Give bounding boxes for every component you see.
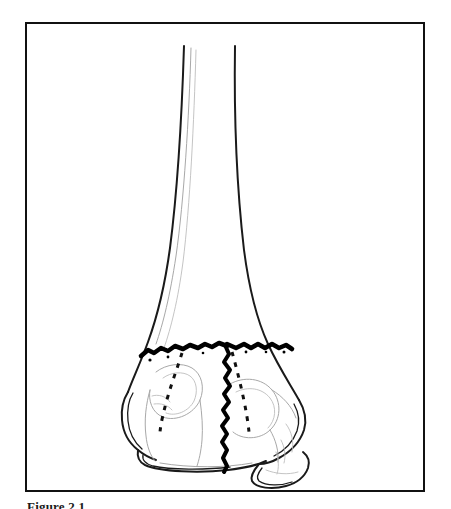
- figure-border-frame: [25, 22, 425, 492]
- figure-caption: Figure 2.1: [27, 500, 85, 509]
- figure-page: .ol { fill:none; stroke:#1a1a1a; stroke-…: [0, 0, 451, 509]
